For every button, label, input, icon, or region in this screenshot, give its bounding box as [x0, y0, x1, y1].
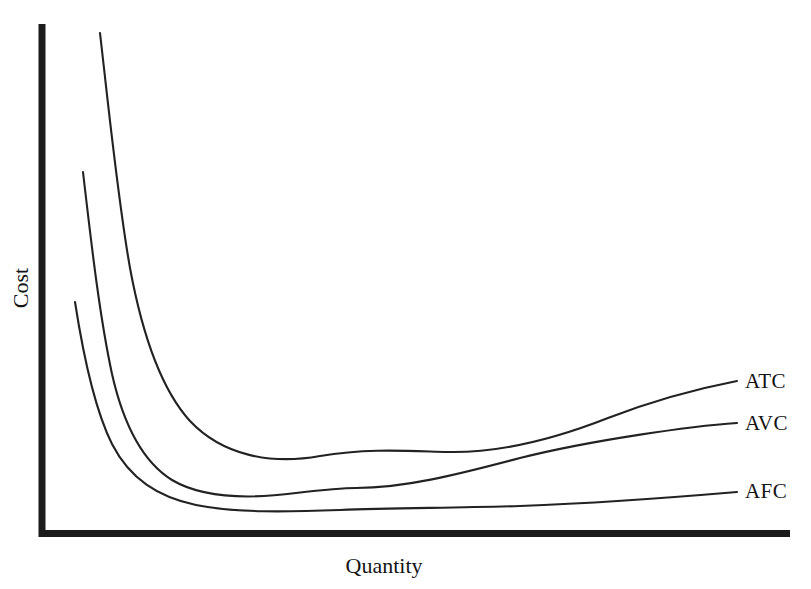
avc-curve	[83, 172, 737, 497]
atc-curve	[100, 33, 737, 459]
afc-label: AFC	[745, 479, 787, 503]
x-axis-title: Quantity	[346, 553, 423, 578]
cost-curves-figure: ATC AVC AFC Quantity Cost	[0, 0, 811, 589]
chart-canvas: ATC AVC AFC Quantity Cost	[0, 0, 811, 589]
atc-label: ATC	[745, 369, 786, 393]
y-axis-title: Cost	[8, 268, 33, 308]
avc-label: AVC	[745, 411, 788, 435]
